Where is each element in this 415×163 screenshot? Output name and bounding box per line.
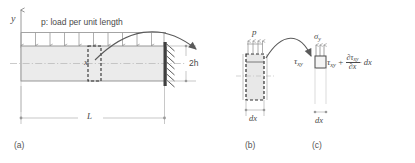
- panel-c-sigma-arrows: [316, 45, 324, 56]
- panel-b-element: [246, 54, 264, 100]
- y-axis-label: y: [11, 13, 15, 24]
- sigma-y-label: σy: [314, 31, 321, 42]
- support-hatching: [167, 44, 175, 87]
- load-description-label: p: load per unit length: [41, 17, 123, 27]
- length-dimension: [20, 86, 166, 124]
- panel-c: [314, 45, 328, 113]
- tau-xy-left-label: τxy: [294, 56, 303, 67]
- load-arrows-group: [21, 33, 164, 46]
- panel-b-load-arrows: [248, 41, 263, 53]
- callout-arrow-b-to-c: [266, 38, 311, 58]
- panel-c-guides: [315, 68, 326, 104]
- beam-body: [21, 46, 166, 81]
- beam-depth-label: 2h: [189, 58, 198, 68]
- fixed-support-wall: [164, 42, 167, 86]
- tau-xy-right-expression: τxy + ∂τxy∂x· dx: [327, 54, 372, 72]
- panel-b-load-label: p: [252, 27, 257, 37]
- panel-b-caption: (b): [245, 140, 255, 150]
- x-position-label: x: [84, 57, 88, 67]
- panel-a: [10, 10, 196, 124]
- dot-dx-term: · dx: [360, 57, 372, 67]
- panel-c-caption: (c): [312, 140, 322, 150]
- panel-b-dx-label: dx: [249, 113, 257, 123]
- beam-length-label: L: [87, 111, 92, 121]
- tau-xy-right-term: τxy: [327, 57, 336, 67]
- panel-c-dx-label: dx: [315, 115, 323, 125]
- panel-a-caption: (a): [14, 140, 24, 150]
- panel-c-dx-dimension: [314, 111, 328, 114]
- fraction-denominator: ∂x: [346, 63, 360, 71]
- partial-derivative-fraction: ∂τxy∂x: [346, 54, 360, 72]
- panel-b: [236, 41, 274, 116]
- panel-c-element: [315, 56, 326, 68]
